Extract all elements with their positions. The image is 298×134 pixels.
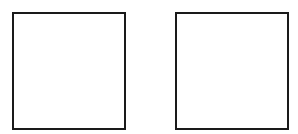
- empty-square-right: [175, 12, 289, 130]
- empty-square-left: [12, 12, 126, 130]
